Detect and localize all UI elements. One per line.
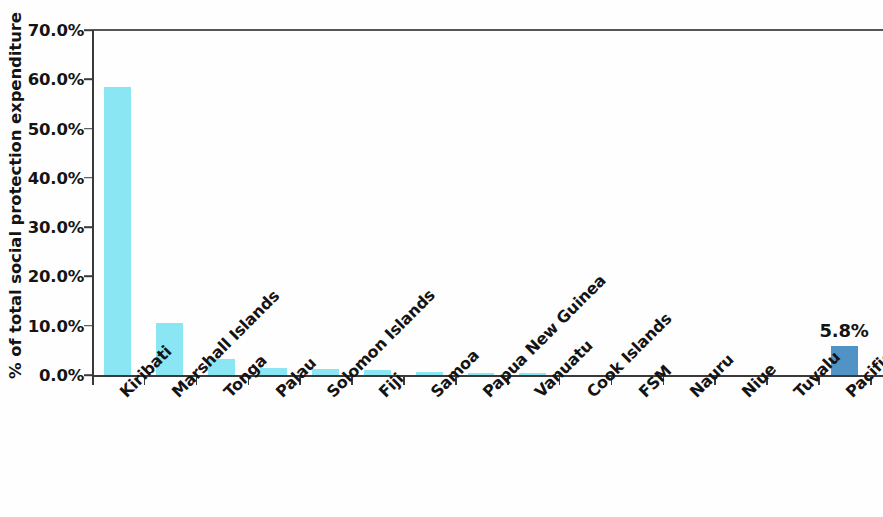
x-axis-category-label: Niue [738,388,751,401]
plot-area: 5.8% [92,30,870,375]
y-axis-tick-mark [84,374,92,376]
x-axis-category-label: Pacific Average [842,388,855,401]
x-axis-category-label: Tonga [220,388,233,401]
x-axis-tick-mark [92,376,94,385]
x-axis-category-label: FSM [635,388,648,401]
x-axis-category-label: Palau [272,388,285,401]
x-axis-category-label: Fiji [375,388,388,401]
y-axis-tick-label: 10.0% [28,316,84,335]
y-axis-tick-mark [84,29,92,31]
y-axis-tick-mark [84,177,92,179]
x-axis-category-label: Samoa [427,388,440,401]
y-axis-title-text: % of total social protection expenditure [6,12,25,379]
y-axis-tick-label: 70.0% [28,21,84,40]
y-axis-tick-label: 40.0% [28,168,84,187]
y-axis-tick-mark [84,78,92,80]
x-axis-category-label: Nauru [686,388,699,401]
y-axis-tick-mark [84,128,92,130]
bar-value-label: 5.8% [820,320,869,341]
x-axis-category-label: Marshall Islands [168,388,181,401]
x-axis-category-label: Cook Islands [583,388,596,401]
chart-screenshot: % of total social protection expenditure… [0,0,883,517]
x-axis-category-label: Vanuatu [531,388,544,401]
y-axis-tick-label: 60.0% [28,70,84,89]
x-axis-category-label: Kiribati [116,388,129,401]
y-axis-tick-mark [84,325,92,327]
x-axis-category-label: Solomon Islands [323,388,336,401]
y-axis-tick-mark [84,276,92,278]
y-axis-tick-label: 0.0% [39,366,84,385]
bar[interactable] [104,87,131,375]
y-axis-tick-label: 20.0% [28,267,84,286]
y-axis-tick-label: 30.0% [28,218,84,237]
x-axis-category-label: Tuvalu [790,388,803,401]
y-axis-tick-mark [84,226,92,228]
y-axis-tick-label: 50.0% [28,119,84,138]
x-axis-category-label: Papua New Guinea [479,388,492,401]
y-axis-tick-labels: 0.0%10.0%20.0%30.0%40.0%50.0%60.0%70.0% [26,0,92,390]
